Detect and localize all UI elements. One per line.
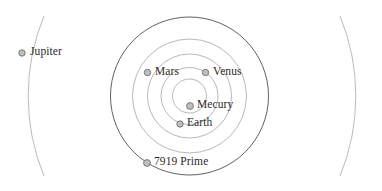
jupiter-label: Jupiter bbox=[30, 46, 62, 58]
mars-marker[interactable] bbox=[144, 69, 150, 75]
jupiter-orbit-arc-left bbox=[28, 16, 44, 176]
jupiter-orbit-arc-right bbox=[340, 16, 356, 176]
venus-label: Venus bbox=[213, 66, 242, 78]
prime-7919-label: 7919 Prime bbox=[154, 156, 208, 168]
mars-label: Mars bbox=[155, 66, 179, 78]
mars-orbit-ring bbox=[133, 39, 247, 153]
earth-marker[interactable] bbox=[177, 121, 183, 127]
mecury-marker[interactable] bbox=[187, 103, 194, 110]
orbital-diagram-canvas: Jupiter Mars Venus Mecury Earth 7919 Pri… bbox=[0, 0, 382, 191]
mecury-label: Mecury bbox=[197, 99, 233, 111]
venus-marker[interactable] bbox=[202, 69, 208, 75]
prime-7919-marker[interactable] bbox=[144, 160, 151, 167]
prime-orbit-ring bbox=[111, 17, 269, 175]
jupiter-marker[interactable] bbox=[19, 50, 25, 56]
earth-label: Earth bbox=[187, 117, 212, 129]
